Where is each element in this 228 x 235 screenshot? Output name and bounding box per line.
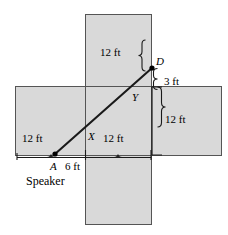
geometry-figure: 12 ft 3 ft 12 ft 12 ft 12 ft 6 ft D Y X … [0, 0, 228, 235]
speaker-label: Speaker [26, 175, 65, 187]
point-a-dot [52, 151, 57, 156]
dimension-top-12ft: 12 ft [100, 47, 120, 58]
figure-canvas [0, 0, 228, 235]
point-label-x: X [88, 131, 95, 142]
dimension-right-3ft: 3 ft [164, 76, 179, 87]
dimension-bottom-left-12ft: 12 ft [22, 133, 42, 144]
point-label-y: Y [132, 92, 138, 103]
dimension-a-offset-6ft: 6 ft [65, 161, 80, 172]
point-label-d: D [156, 56, 164, 67]
dimension-bottom-right-12ft: 12 ft [103, 133, 123, 144]
point-label-a: A [50, 161, 57, 172]
dimension-right-12ft: 12 ft [165, 114, 185, 125]
